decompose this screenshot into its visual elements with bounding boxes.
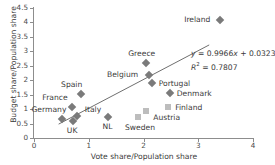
y-tick-label: 2 [23,76,28,84]
y-tick-mark [30,124,33,125]
y-tick-label: 3.5 [17,33,28,41]
x-tick-label: 2 [134,142,154,150]
data-point[interactable] [166,89,174,97]
y-tick-mark [30,51,33,52]
regression-equation: y = 0.9966x + 0.0323 [191,48,275,59]
y-tick-mark [30,37,33,38]
x-axis-title: Vote share/Population share [34,152,254,161]
y-tick-label: 3 [23,47,28,55]
data-point-label: Ireland [184,15,210,24]
trendline [0,0,275,165]
x-tick-label: 4 [243,142,263,150]
data-point[interactable] [104,112,112,120]
r-squared-number: = 0.7807 [200,63,238,72]
data-point-label: UK [67,126,78,135]
data-point[interactable] [135,114,141,120]
data-point[interactable] [165,104,171,110]
equation-slope-part: = 0.9966 [196,49,234,58]
data-point-label: Portugal [159,79,190,88]
data-point[interactable] [143,108,149,114]
data-point-label: Italy [85,105,101,114]
x-tick-label: 3 [188,142,208,150]
r-squared-value: R2 = 0.7807 [191,59,275,73]
data-point[interactable] [147,79,155,87]
y-tick-label: 1.5 [17,91,28,99]
data-point-label: France [42,93,67,102]
y-tick-label: 2.5 [17,62,28,70]
y-tick-label: 1 [23,105,28,113]
y-tick-mark [30,66,33,67]
data-point-label: Denmark [177,89,212,98]
y-tick-mark [30,80,33,81]
y-tick-label: 4.5 [17,4,28,12]
data-point[interactable] [216,16,224,24]
regression-annotation: y = 0.9966x + 0.0323 R2 = 0.7807 [191,48,275,73]
data-point[interactable] [58,115,66,123]
equation-intercept-part: + 0.0323 [238,49,275,58]
data-point-label: Austria [153,113,180,122]
y-tick-mark [30,138,33,139]
y-tick-mark [30,95,33,96]
data-point[interactable] [68,103,76,111]
y-tick-mark [30,8,33,9]
y-tick-label: 0 [23,134,28,142]
data-point-label: Belgium [107,70,138,79]
y-axis-line [33,7,34,139]
data-point-label: NL [102,122,112,131]
data-point-label: Spain [61,80,82,89]
data-point-label: Sweden [125,123,155,132]
y-tick-mark [30,22,33,23]
data-point[interactable] [142,58,150,66]
data-point-label: Finland [175,103,202,112]
data-point-label: Germany [31,105,66,114]
y-tick-label: 4 [23,18,28,26]
y-axis-title: Budget share/Population share [9,0,18,130]
x-tick-label: 1 [79,142,99,150]
data-point[interactable] [77,90,85,98]
x-tick-label: 0 [24,142,44,150]
y-tick-label: 0.5 [17,120,28,128]
data-point-label: Greece [128,49,155,58]
scatter-chart: 00.511.522.533.544.5 01234 Budget share/… [0,0,275,165]
